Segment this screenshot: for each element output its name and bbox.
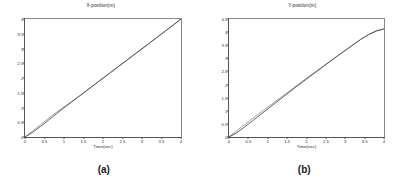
y-tick-label: 0.5	[222, 121, 228, 126]
plot-area-x-position: 00.511.522.533.5400.511.522.533.54Time(s…	[24, 18, 182, 138]
y-tick-label: 3	[225, 56, 227, 61]
figure-two-panel-plots: X-position(m) 00.511.522.533.5400.511.52…	[0, 0, 403, 178]
series-line-actual	[25, 19, 181, 137]
y-tick-label: 3.5	[18, 31, 24, 36]
line-chart-y-position	[229, 19, 384, 137]
y-tick-label: 2.5	[18, 61, 24, 66]
subfigure-caption-a: (a)	[0, 164, 202, 175]
y-tick-label: 2	[225, 82, 227, 87]
subfigure-caption-b: (b)	[202, 164, 403, 175]
y-tick-label: 0.5	[18, 120, 24, 125]
y-tick-label: 2	[21, 76, 23, 81]
panel-b: Y-position(m) 00.511.522.533.544.500.511…	[202, 0, 403, 178]
y-tick-label: 4	[225, 30, 227, 35]
y-tick-label: 2.5	[222, 69, 228, 74]
y-tick-label: 3	[21, 46, 23, 51]
y-tick-label: 1	[225, 108, 227, 113]
panel-a: X-position(m) 00.511.522.533.5400.511.52…	[0, 0, 202, 178]
plot-area-y-position: 00.511.522.533.544.500.511.522.533.54Tim…	[228, 18, 385, 138]
line-chart-x-position	[25, 19, 181, 137]
x-axis-label: Time(sec)	[229, 144, 384, 149]
y-tick-label: 4	[21, 17, 23, 22]
y-tick-label: 3.5	[222, 43, 228, 48]
x-axis-label: Time(sec)	[25, 144, 181, 149]
y-tick-label: 1	[21, 105, 23, 110]
plot-title-x-position: X-position(m)	[0, 3, 202, 8]
y-tick-label: 4.5	[222, 17, 228, 22]
y-tick-label: 1.5	[18, 90, 24, 95]
plot-title-y-position: Y-position(m)	[202, 3, 403, 8]
series-line-actual	[229, 29, 384, 137]
y-tick-label: 1.5	[222, 95, 228, 100]
